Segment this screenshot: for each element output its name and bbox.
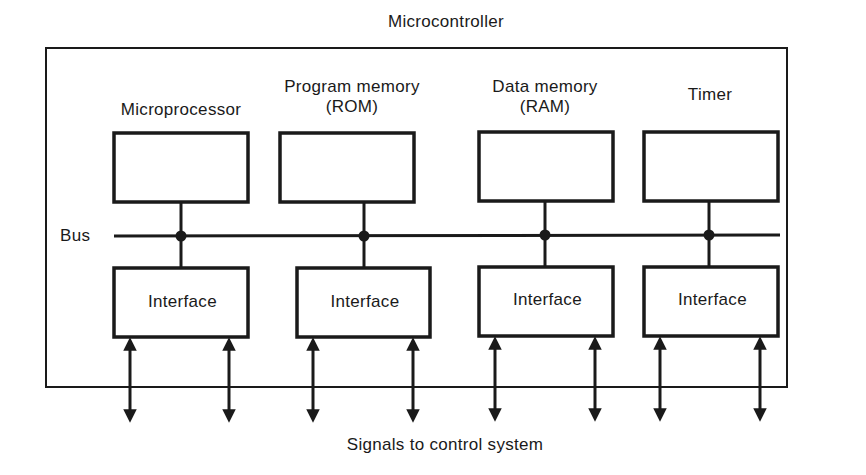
block-label-microprocessor: Microprocessor [96, 100, 266, 120]
bus-line [114, 235, 780, 236]
diagram-title: Microcontroller [346, 12, 546, 32]
microcontroller-diagram [0, 0, 866, 475]
signal-arrows [130, 343, 760, 416]
interface-label: Interface [644, 290, 781, 310]
block-label-ram: Data memory (RAM) [460, 77, 630, 117]
microprocessor-block [114, 133, 248, 202]
rom-block [280, 133, 414, 202]
block-label-timer: Timer [650, 85, 770, 105]
bus-junction-dot [176, 231, 187, 242]
label-line: (RAM) [460, 97, 630, 117]
interface-label: Interface [114, 292, 251, 312]
bus-junction-dot [704, 230, 715, 241]
bus-junction-dot [540, 230, 551, 241]
block-label-rom: Program memory (ROM) [262, 77, 442, 117]
label-line: Program memory [262, 77, 442, 97]
label-line: Data memory [460, 77, 630, 97]
bus-junction-dot [359, 231, 370, 242]
interface-label: Interface [297, 292, 433, 312]
label-line: Microprocessor [96, 100, 266, 120]
ram-block [479, 132, 613, 201]
timer-block [644, 132, 778, 201]
label-line: Timer [650, 85, 770, 105]
interface-label: Interface [479, 290, 616, 310]
bus-label: Bus [60, 226, 110, 246]
label-line: (ROM) [262, 97, 442, 117]
footer-caption: Signals to control system [300, 435, 590, 455]
